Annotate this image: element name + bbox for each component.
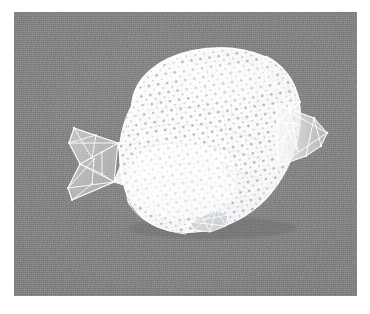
render-plate	[14, 12, 357, 296]
mesh-canvas	[14, 12, 357, 296]
figure-alt-text: Grayscale rendering of a triangulated 3D…	[0, 0, 1, 1]
page-root: Grayscale rendering of a triangulated 3D…	[0, 0, 370, 314]
caudal-fin	[67, 127, 118, 201]
